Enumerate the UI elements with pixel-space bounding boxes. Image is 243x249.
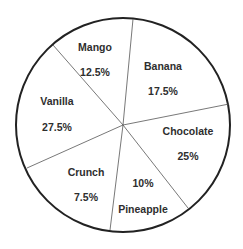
slice-label-crunch-name: Crunch bbox=[68, 167, 105, 178]
slice-label-crunch-value: 7.5% bbox=[74, 192, 98, 203]
slice-label-chocolate-name: Chocolate bbox=[163, 126, 214, 137]
slice-label-chocolate-value: 25% bbox=[177, 151, 198, 162]
slice-label-mango-value: 12.5% bbox=[80, 67, 110, 78]
slice-label-vanilla-value: 27.5% bbox=[42, 122, 72, 133]
slice-label-banana-name: Banana bbox=[144, 61, 182, 72]
slice-label-pineapple-name: Pineapple bbox=[118, 204, 168, 215]
slice-label-vanilla-name: Vanilla bbox=[40, 96, 73, 107]
slice-label-pineapple-value: 10% bbox=[132, 178, 153, 189]
slice-label-mango-name: Mango bbox=[78, 42, 112, 53]
slice-label-banana-value: 17.5% bbox=[148, 86, 178, 97]
